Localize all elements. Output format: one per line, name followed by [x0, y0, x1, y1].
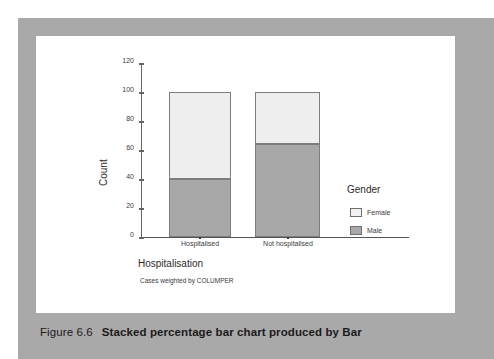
chart-footnote: Cases weighted by COLUMPER [140, 277, 234, 284]
bar-hospitalised [169, 92, 231, 237]
y-tick-60: 60 [139, 150, 144, 152]
bar-segment-male-hospitalised [169, 179, 231, 237]
y-tick-label-80: 80 [126, 115, 134, 122]
y-tick-label-60: 60 [126, 144, 134, 151]
y-tick-20: 20 [139, 208, 144, 210]
legend-swatch-male-icon [350, 226, 362, 235]
bar-segment-male-not-hospitalised [255, 144, 320, 237]
figure-screenshot: 120 100 80 60 40 20 0 Count Hospitalised [0, 0, 494, 359]
y-tick-120: 120 [139, 63, 144, 65]
y-tick-label-40: 40 [126, 173, 134, 180]
legend-label-male: Male [367, 227, 382, 234]
legend-title: Gender [347, 184, 447, 195]
figure-caption-title: Stacked percentage bar chart produced by… [102, 326, 362, 338]
chart-legend: Gender Female Male [347, 184, 447, 244]
y-tick-100: 100 [139, 92, 144, 94]
stacked-bar-chart: 120 100 80 60 40 20 0 Count Hospitalised [36, 36, 455, 313]
y-tick-label-0: 0 [130, 231, 134, 238]
figure-caption: Figure 6.6Stacked percentage bar chart p… [40, 326, 362, 338]
bar-segment-female-not-hospitalised [255, 92, 320, 144]
y-tick-80: 80 [139, 121, 144, 123]
figure-caption-band: Figure 6.6Stacked percentage bar chart p… [18, 313, 494, 359]
legend-swatch-female-icon [350, 208, 362, 217]
y-tick-label-20: 20 [126, 202, 134, 209]
x-tick-label-not-hospitalised: Not hospitalised [263, 240, 313, 247]
figure-white-panel: 120 100 80 60 40 20 0 Count Hospitalised [36, 36, 455, 313]
legend-item-male: Male [350, 226, 447, 235]
y-tick-40: 40 [139, 179, 144, 181]
x-tick-label-hospitalised: Hospitalised [181, 240, 219, 247]
y-tick-label-100: 100 [122, 86, 134, 93]
x-tick-dot-hospitalised [199, 237, 201, 239]
figure-caption-number: Figure 6.6 [40, 326, 93, 338]
y-axis-title: Count [98, 159, 109, 186]
x-axis-title: Hospitalisation [138, 258, 203, 269]
legend-label-female: Female [367, 209, 390, 216]
x-tick-dot-not-hospitalised [287, 237, 289, 239]
bar-not-hospitalised [255, 92, 320, 237]
y-tick-0: 0 [139, 237, 144, 239]
y-tick-label-120: 120 [122, 57, 134, 64]
bar-segment-female-hospitalised [169, 92, 231, 179]
legend-item-female: Female [350, 208, 447, 217]
